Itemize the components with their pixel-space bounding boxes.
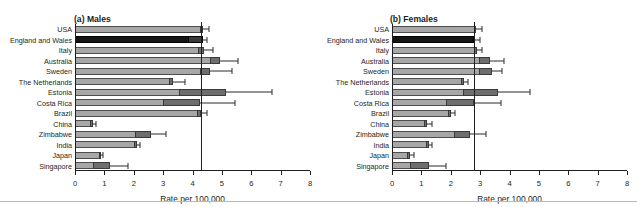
bar xyxy=(75,110,201,117)
country-label: China xyxy=(53,119,72,128)
bar-row: Sweden xyxy=(75,68,310,75)
country-label: Estonia xyxy=(365,88,389,97)
error-bar-cap xyxy=(166,131,167,137)
bar-row: India xyxy=(75,141,310,148)
x-tick xyxy=(251,171,252,175)
bar-row: USA xyxy=(392,26,627,33)
error-bar xyxy=(173,81,185,82)
error-bar-cap xyxy=(235,100,236,106)
x-tick-label: 6 xyxy=(566,179,570,188)
error-bar-cap xyxy=(480,37,481,43)
y-axis-females xyxy=(392,24,393,171)
bar-row: England and Wales xyxy=(392,36,627,43)
error-bar-cap xyxy=(232,68,233,74)
bar xyxy=(75,57,220,64)
country-label: England and Wales xyxy=(10,35,72,44)
error-bar-cap xyxy=(185,79,186,85)
x-tick xyxy=(392,171,393,175)
bar xyxy=(392,68,492,75)
bar-row: The Netherlands xyxy=(75,78,310,85)
x-tick-label: 7 xyxy=(596,179,600,188)
error-bar-cap xyxy=(207,110,208,116)
country-label: The Netherlands xyxy=(19,77,72,86)
country-label: Costa Rica xyxy=(354,98,389,107)
panel-title-males: (a) Males xyxy=(74,14,111,24)
country-label: Costa Rica xyxy=(37,98,72,107)
bar-row: Brazil xyxy=(75,110,310,117)
bar-row: Italy xyxy=(75,47,310,54)
x-tick-label: 4 xyxy=(190,179,194,188)
bar-row: Brazil xyxy=(392,110,627,117)
bar-row: Costa Rica xyxy=(392,99,627,106)
bar xyxy=(75,68,210,75)
country-label: Singapore xyxy=(356,161,389,170)
bar-row: Japan xyxy=(392,152,627,159)
x-tick-label: 3 xyxy=(478,179,482,188)
x-axis-label-females: Rate per 100,000 xyxy=(477,194,542,204)
error-bar-cap xyxy=(271,89,272,95)
bar-row: India xyxy=(392,141,627,148)
bar-ci-segment xyxy=(463,89,498,96)
country-label: Singapore xyxy=(39,161,72,170)
error-bar-cap xyxy=(414,152,415,158)
country-label: Brazil xyxy=(54,109,72,118)
error-bar-cap xyxy=(213,47,214,53)
error-bar xyxy=(210,71,232,72)
x-tick xyxy=(75,171,76,175)
error-bar-cap xyxy=(102,152,103,158)
x-tick xyxy=(104,171,105,175)
error-bar-cap xyxy=(431,121,432,127)
bar xyxy=(392,141,429,148)
y-axis-males xyxy=(75,24,76,171)
bar-row: China xyxy=(392,120,627,127)
plot-area-females: USAEngland and WalesItalyAustraliaSweden… xyxy=(392,24,627,171)
error-bar-cap xyxy=(238,58,239,64)
panel-males: (a) Males USAEngland and WalesItalyAustr… xyxy=(0,0,318,207)
bar xyxy=(392,47,477,54)
country-label: Brazil xyxy=(371,109,389,118)
reference-line-males xyxy=(201,22,202,171)
error-bar-cap xyxy=(431,142,432,148)
bar xyxy=(75,152,100,159)
country-label: England and Wales xyxy=(327,35,389,44)
country-label: Zimbabwe xyxy=(39,130,72,139)
country-label: Italy xyxy=(59,46,72,55)
bar xyxy=(392,57,490,64)
country-label: Australia xyxy=(44,56,72,65)
country-label: India xyxy=(56,140,72,149)
bar-ci-segment xyxy=(479,68,492,75)
bar-row: Estonia xyxy=(392,89,627,96)
bar-rows-males: USAEngland and WalesItalyAustraliaSweden… xyxy=(75,24,310,171)
country-label: Sweden xyxy=(363,67,389,76)
error-bar-cap xyxy=(481,47,482,53)
bar-row: Japan xyxy=(75,152,310,159)
bar xyxy=(392,26,476,33)
panel-females: (b) Females USAEngland and WalesItalyAus… xyxy=(318,0,637,207)
error-bar xyxy=(200,102,235,103)
x-tick xyxy=(451,171,452,175)
error-bar xyxy=(474,102,500,103)
x-tick xyxy=(163,171,164,175)
bar-row: Singapore xyxy=(392,162,627,169)
panel-title-females: (b) Females xyxy=(390,14,438,24)
bar xyxy=(75,26,203,33)
bar xyxy=(392,110,451,117)
x-tick xyxy=(134,171,135,175)
x-tick xyxy=(421,171,422,175)
x-tick-label: 2 xyxy=(132,179,136,188)
x-tick xyxy=(222,171,223,175)
x-tick-label: 6 xyxy=(249,179,253,188)
country-label: Italy xyxy=(376,46,389,55)
footer-divider xyxy=(0,201,637,202)
bar-ci-segment xyxy=(446,99,474,106)
x-tick-label: 0 xyxy=(390,179,394,188)
x-tick-label: 3 xyxy=(161,179,165,188)
bar-ci-segment xyxy=(135,131,151,138)
error-bar-cap xyxy=(455,110,456,116)
x-tick xyxy=(627,171,628,175)
bar-ci-segment xyxy=(410,162,429,169)
error-bar-cap xyxy=(95,121,96,127)
x-tick-label: 1 xyxy=(419,179,423,188)
country-label: Estonia xyxy=(48,88,72,97)
bar-ci-segment xyxy=(454,131,470,138)
